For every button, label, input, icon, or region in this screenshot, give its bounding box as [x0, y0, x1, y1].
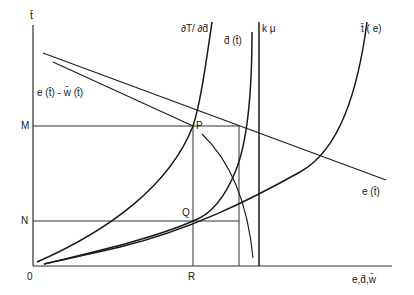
d-t-curve	[44, 32, 252, 264]
downward-curve-from-p	[202, 134, 253, 258]
origin-label: 0	[27, 272, 33, 282]
d-t-label: d̄ (t̄)	[224, 36, 242, 46]
e-t-label: e (t̄)	[362, 187, 380, 197]
y-axis-label: t̄	[30, 10, 33, 21]
point-p-label: P	[196, 121, 203, 131]
k-mu-label: k μ	[262, 24, 276, 34]
t-e-curve	[44, 22, 367, 264]
point-n-label: N	[21, 216, 28, 226]
point-q-label: Q	[182, 208, 190, 218]
dT-dd-label: ∂T/ ∂d̄	[181, 24, 208, 34]
x-axis-label: e,d̄,w̄	[352, 275, 376, 285]
t-e-label: t̄ ( e)	[361, 24, 382, 34]
point-m-label: M	[21, 121, 29, 131]
point-r-label: R	[188, 272, 195, 282]
economics-diagram: t̄ 0 e,d̄,w̄ M N R P Q ∂T/ ∂d̄ d̄ (t̄) k…	[0, 0, 414, 295]
e-minus-w-label: e (t̄) - w̄ (t̄)	[37, 88, 83, 98]
e-t-line	[43, 53, 386, 180]
diagram-canvas	[0, 0, 414, 295]
